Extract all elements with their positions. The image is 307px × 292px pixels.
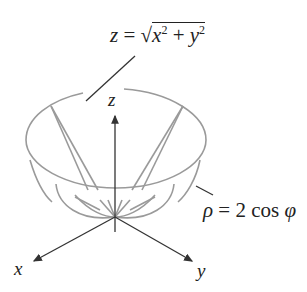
var-x: x xyxy=(152,23,161,47)
plus: + xyxy=(167,23,189,47)
sphere-leader-line xyxy=(196,186,213,195)
y-axis xyxy=(115,217,192,261)
y-axis-label: y xyxy=(197,260,205,282)
cone-surface xyxy=(26,89,206,217)
radicand: x2 + y2 xyxy=(152,22,205,46)
eq-z: z xyxy=(110,23,118,47)
sphere-equation-label: ρ = 2 cos φ xyxy=(203,198,296,223)
x-axis-label: x xyxy=(14,258,22,280)
eq-rest: = 2 cos xyxy=(213,198,284,222)
sqrt-icon: √ xyxy=(141,23,153,47)
z-axis-label: z xyxy=(108,89,115,111)
var-y: y xyxy=(190,23,199,47)
cone-equation-label: z = √x2 + y2 xyxy=(110,22,205,48)
eq-sign: = xyxy=(118,23,140,47)
exp: 2 xyxy=(199,23,205,37)
rho: ρ xyxy=(203,198,213,222)
x-axis xyxy=(34,217,115,261)
phi: φ xyxy=(284,198,296,222)
